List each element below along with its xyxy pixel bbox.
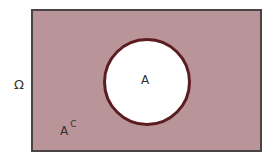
set-a-label: A — [141, 74, 149, 86]
complement-label: AC — [60, 123, 77, 137]
universe-label: Ω — [14, 78, 24, 91]
complement-superscript: C — [70, 119, 76, 129]
complement-base: A — [60, 124, 68, 138]
